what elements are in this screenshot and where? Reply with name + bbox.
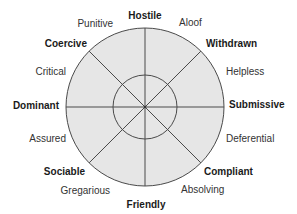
center-point xyxy=(144,106,147,109)
label-helpless: Helpless xyxy=(226,66,264,77)
label-friendly: Friendly xyxy=(127,199,166,210)
label-withdrawn: Withdrawn xyxy=(206,38,257,49)
label-deferential: Deferential xyxy=(226,133,274,144)
label-aloof: Aloof xyxy=(179,17,202,28)
label-absolving: Absolving xyxy=(181,184,224,195)
label-punitive: Punitive xyxy=(77,18,113,29)
label-critical: Critical xyxy=(35,66,66,77)
label-compliant: Compliant xyxy=(204,166,254,177)
label-gregarious: Gregarious xyxy=(61,185,110,196)
label-coercive: Coercive xyxy=(45,38,88,49)
label-assured: Assured xyxy=(29,133,66,144)
label-dominant: Dominant xyxy=(13,100,60,111)
label-hostile: Hostile xyxy=(128,10,162,21)
circumplex-diagram: Hostile Withdrawn Submissive Compliant F… xyxy=(0,0,297,214)
label-submissive: Submissive xyxy=(229,99,285,110)
label-sociable: Sociable xyxy=(44,166,86,177)
